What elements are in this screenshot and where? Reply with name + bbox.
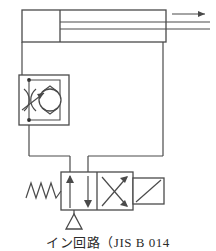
tank-triangle-icon bbox=[66, 214, 82, 229]
return-spring-icon bbox=[26, 183, 61, 198]
solenoid-actuator-icon bbox=[133, 178, 164, 204]
cylinder-group bbox=[22, 10, 210, 42]
tank-vent-group bbox=[66, 210, 82, 229]
motion-arrow-icon bbox=[172, 11, 205, 17]
flow-control-valve-group bbox=[19, 75, 69, 125]
figure-caption: イン回路（JIS B 014 bbox=[0, 232, 216, 251]
directional-valve-group bbox=[26, 172, 164, 210]
cylinder-body bbox=[22, 10, 166, 42]
